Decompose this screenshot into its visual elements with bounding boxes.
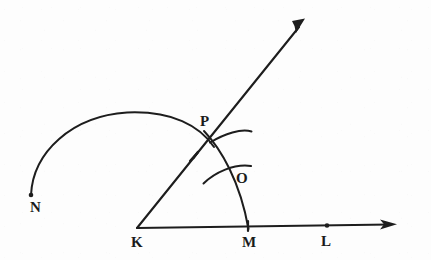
angle-ray-arrowhead-icon [292, 19, 305, 34]
base-ray-line [137, 225, 390, 229]
label-K: K [131, 235, 143, 250]
geometry-diagram: N P O K M L [0, 0, 431, 260]
label-L: L [321, 234, 331, 249]
base-ray-group [137, 220, 397, 230]
angle-ray-line [137, 27, 299, 228]
point-dot-L [325, 223, 330, 228]
label-N: N [30, 200, 41, 215]
point-dot-N [29, 193, 34, 198]
angle-ray-group [137, 19, 305, 229]
small-arc-near-P [210, 131, 252, 143]
label-P: P [200, 114, 209, 129]
label-M: M [242, 235, 256, 250]
diagram-canvas [0, 0, 431, 260]
label-O: O [236, 171, 248, 186]
large-arc-N-to-P [31, 112, 214, 195]
